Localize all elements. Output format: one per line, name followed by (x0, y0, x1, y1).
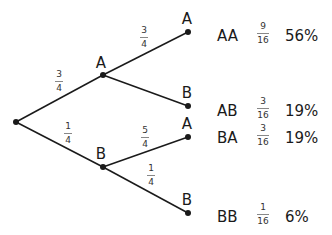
outcome-percent: 56% (285, 29, 318, 44)
node-B (100, 164, 106, 170)
prob-root-A: 3 4 (55, 70, 63, 93)
fraction-bar (55, 81, 63, 82)
outcome-label: AB (217, 104, 238, 119)
prob-B-B: 1 4 (147, 164, 155, 187)
outcome-label: BA (217, 131, 238, 146)
outcome-fraction: 3 16 (256, 97, 270, 120)
outcome-denominator: 16 (257, 36, 268, 45)
outcome-row-BB: BB 1 16 6% (0, 203, 332, 231)
outcome-numerator: 1 (260, 203, 266, 212)
outcome-row-AB: AB 3 16 19% (0, 97, 332, 125)
outcome-numerator: 9 (260, 22, 266, 31)
outcome-denominator: 16 (257, 111, 268, 120)
node-A (100, 72, 106, 78)
fraction-bar (257, 135, 269, 136)
prob-numerator: 3 (56, 70, 62, 79)
fraction-bar (257, 108, 269, 109)
outcome-label: BB (217, 210, 238, 225)
outcome-denominator: 16 (257, 217, 268, 226)
outcome-row-BA: BA 3 16 19% (0, 124, 332, 152)
outcome-percent: 19% (285, 104, 318, 119)
outcome-denominator: 16 (257, 138, 268, 147)
prob-denominator: 4 (56, 84, 62, 93)
node-label-A: A (96, 56, 106, 71)
outcome-label: AA (217, 29, 238, 44)
outcome-numerator: 3 (260, 97, 266, 106)
outcome-fraction: 9 16 (256, 22, 270, 45)
outcome-percent: 19% (285, 131, 318, 146)
outcome-fraction: 1 16 (256, 203, 270, 226)
fraction-bar (147, 175, 155, 176)
outcome-fraction: 3 16 (256, 124, 270, 147)
fraction-bar (257, 33, 269, 34)
prob-numerator: 1 (148, 164, 154, 173)
prob-denominator: 4 (148, 178, 154, 187)
outcome-percent: 6% (285, 210, 309, 225)
outcome-row-AA: AA 9 16 56% (0, 22, 332, 50)
outcome-numerator: 3 (260, 124, 266, 133)
fraction-bar (257, 214, 269, 215)
